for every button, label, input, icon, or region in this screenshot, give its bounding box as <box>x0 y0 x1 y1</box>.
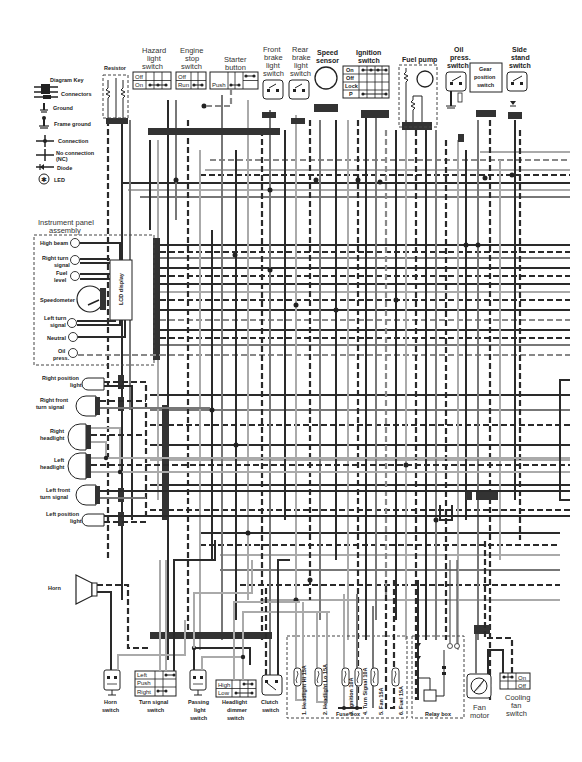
resistor-label: Resistor <box>104 65 127 71</box>
svg-text:dimmer: dimmer <box>227 707 248 713</box>
svg-text:switch: switch <box>142 62 163 71</box>
svg-text:Speedometer: Speedometer <box>40 297 76 303</box>
right-headlight-icon <box>68 424 86 450</box>
svg-text:button: button <box>225 63 246 72</box>
fuse-5-fan: 5. Fan 15A <box>371 606 384 715</box>
svg-text:Right: Right <box>50 428 64 434</box>
svg-text:Left: Left <box>54 457 64 463</box>
svg-text:On: On <box>135 82 143 88</box>
svg-text:sensor: sensor <box>316 57 339 64</box>
svg-text:switch: switch <box>477 82 495 88</box>
key-diode-icon <box>36 164 54 170</box>
svg-text:Right position: Right position <box>42 375 80 381</box>
svg-text:On: On <box>518 675 526 681</box>
svg-text:Left front: Left front <box>46 487 70 493</box>
key-frame-ground-label: Frame ground <box>54 121 91 127</box>
gear-position-switch: Gear position switch <box>470 63 502 92</box>
neutral-led-icon <box>69 333 78 342</box>
key-diode-label: Diode <box>57 165 72 171</box>
speed-sensor: Speed sensor <box>315 49 339 89</box>
diagram-key: Diagram Key Connectors Ground Frame grou… <box>34 77 95 184</box>
fan-motor: Fan motor <box>467 634 503 720</box>
wire-harness <box>108 95 570 700</box>
positive-terminal-icon <box>448 644 453 649</box>
key-frame-ground-icon <box>39 116 49 128</box>
svg-text:switch: switch <box>358 57 380 64</box>
svg-text:switch: switch <box>290 69 311 78</box>
svg-text:Left turn: Left turn <box>44 315 67 321</box>
resistor: Resistor <box>103 65 128 118</box>
svg-text:Off: Off <box>178 74 186 80</box>
svg-text:turn signal: turn signal <box>40 494 69 500</box>
svg-text:5. Fan 15A: 5. Fan 15A <box>378 687 384 715</box>
key-connectors-icon <box>34 84 58 99</box>
oil-press-led-icon <box>69 349 78 358</box>
svg-text:signal: signal <box>54 262 70 268</box>
right-front-turn-bulb-icon <box>76 396 96 416</box>
svg-text:P: P <box>349 91 353 97</box>
svg-text:level: level <box>54 277 67 283</box>
svg-text:Low: Low <box>218 690 230 696</box>
front-brake-light-switch: Front brake light switch <box>263 45 284 99</box>
svg-text:switch: switch <box>147 707 165 713</box>
key-ground-label: Ground <box>53 105 73 111</box>
key-no-connection-icon <box>36 149 54 161</box>
instrument-panel-assembly: Instrument panel assembly LCD display Hi… <box>34 218 160 365</box>
fuel-level-led-icon <box>71 272 80 281</box>
svg-text:Turn signal: Turn signal <box>139 699 169 705</box>
svg-text:Lock: Lock <box>345 83 359 89</box>
hazard-light-switch: Hazard light switch Off On <box>133 46 171 89</box>
left-front-turn-bulb-icon <box>76 485 96 505</box>
svg-text:signal: signal <box>50 322 66 328</box>
svg-text:On: On <box>346 67 354 73</box>
svg-text:switch: switch <box>190 715 208 721</box>
svg-text:light: light <box>70 382 82 388</box>
negative-terminal-icon <box>455 644 460 649</box>
svg-text:Right front: Right front <box>40 397 68 403</box>
svg-text:switch: switch <box>506 709 527 718</box>
svg-text:4. Turn Signal 10A: 4. Turn Signal 10A <box>362 667 368 715</box>
svg-text:Speed: Speed <box>317 49 338 57</box>
svg-text:Side: Side <box>512 46 527 53</box>
engine-stop-switch: Engine stop switch Off Run <box>176 46 206 89</box>
svg-text:motor: motor <box>470 711 490 720</box>
starter-button: Starter button Push <box>204 55 258 106</box>
svg-text:Headlight: Headlight <box>222 699 247 705</box>
oil-pressure-switch: Oil press. switch <box>446 46 471 108</box>
svg-text:Left position: Left position <box>46 511 80 517</box>
key-led-label: LED <box>54 177 65 183</box>
svg-text:switch: switch <box>181 62 202 71</box>
svg-text:light: light <box>70 518 82 524</box>
svg-text:High: High <box>218 682 230 688</box>
svg-text:switch: switch <box>102 707 120 713</box>
left-turn-led-icon <box>68 319 77 328</box>
svg-text:Right: Right <box>137 689 151 695</box>
svg-text:assembly: assembly <box>49 226 81 235</box>
svg-text:Fuel pump: Fuel pump <box>402 56 437 64</box>
svg-text:Off: Off <box>518 683 526 689</box>
key-title: Diagram Key <box>50 77 85 83</box>
key-no-connection-sublabel: (NC) <box>56 156 68 162</box>
svg-text:2. Headlight Lo 15A: 2. Headlight Lo 15A <box>322 664 328 715</box>
key-led-icon: ✱ <box>39 174 49 184</box>
side-stand-switch: Side stand switch <box>507 46 531 106</box>
svg-text:Horn: Horn <box>48 585 61 591</box>
svg-text:Oil: Oil <box>454 46 463 53</box>
right-position-bulb-icon <box>82 378 104 390</box>
svg-text:Gear: Gear <box>479 66 492 72</box>
svg-text:Off: Off <box>346 75 354 81</box>
svg-text:Oil: Oil <box>58 348 66 354</box>
svg-text:Run: Run <box>178 82 189 88</box>
left-position-bulb-icon <box>82 514 104 526</box>
svg-text:Push: Push <box>212 82 226 88</box>
svg-text:Passing: Passing <box>188 699 209 705</box>
svg-text:headlight: headlight <box>40 464 65 470</box>
key-connectors-label: Connectors <box>61 91 92 97</box>
fuse-1-headlight-hi: 1. Headlight Hi 15A <box>294 602 307 715</box>
svg-text:Left: Left <box>137 672 147 678</box>
left-headlight-icon <box>68 453 86 479</box>
key-ground-icon <box>40 103 48 112</box>
svg-text:switch: switch <box>447 62 469 69</box>
svg-text:6. Fuel 15A: 6. Fuel 15A <box>398 686 404 715</box>
svg-text:press.: press. <box>53 355 70 361</box>
